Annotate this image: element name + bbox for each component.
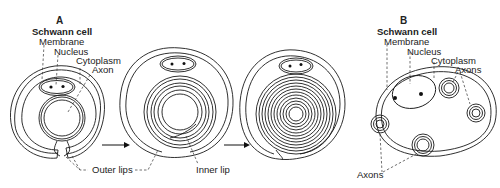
panel-b-axons-top-label: Axons [455, 65, 481, 75]
stage3-axon [289, 107, 303, 121]
stage2-cell [120, 48, 233, 158]
panel-b-nucleus [389, 71, 440, 113]
stage2-axon [162, 94, 198, 130]
panel-a-label: A [56, 16, 63, 26]
stage2-nucleus [162, 58, 194, 70]
stage1-axon [44, 100, 80, 136]
panel-a-axon-label: Axon [92, 65, 114, 75]
panel-b-axon-right [467, 104, 485, 122]
arrow-1-icon [102, 142, 130, 148]
panel-b-cell [371, 67, 496, 157]
panel-b-axon-bottom [412, 134, 434, 156]
outer-lips-label: Outer lips [92, 165, 133, 175]
stage3-nucleus [281, 60, 311, 72]
stage1-nucleus [41, 81, 73, 94]
stage1-cell [10, 66, 104, 159]
panel-b-axon-left [371, 115, 389, 133]
panel-b-label: B [400, 16, 407, 26]
inner-lip-label: Inner lip [196, 165, 230, 175]
panel-b-axons-bottom-label: Axons [357, 170, 383, 180]
arrow-2-icon [224, 142, 250, 148]
stage3-cell [240, 50, 345, 160]
panel-b-axon-top [439, 78, 459, 98]
